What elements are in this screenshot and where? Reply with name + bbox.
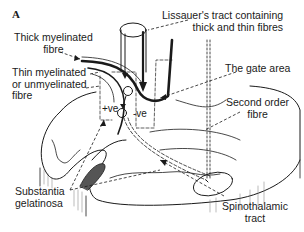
leader-thin-fibre-1 xyxy=(90,72,100,74)
leader-spinothalamic xyxy=(160,160,224,196)
label-substantia-gelatinosa: Substantia gelatinosa xyxy=(15,186,65,209)
label-line: Spinothalamic xyxy=(222,201,288,213)
label-line: fibre xyxy=(12,90,87,102)
label-line: Lissauer's tract containing xyxy=(162,10,283,22)
label-line: Substantia xyxy=(15,186,65,198)
panel-label: A xyxy=(12,8,20,20)
label-gate-area: The gate area xyxy=(225,63,290,75)
label-line: Thick myelinated xyxy=(14,32,93,44)
label-line: Second order xyxy=(226,97,289,109)
label-line: fibre xyxy=(226,109,289,121)
label-line: Thin myelinated xyxy=(12,67,87,79)
spinothalamic-tract-ellipse xyxy=(191,168,235,200)
label-spinothalamic-tract: Spinothalamic tract xyxy=(222,201,288,224)
leader-gate-area xyxy=(160,72,236,98)
label-thick-myelinated-fibre: Thick myelinated fibre xyxy=(14,32,93,55)
label-minus-ve: -ve xyxy=(133,108,147,120)
leader-thin-fibre-2 xyxy=(86,86,100,88)
interneuron-lower xyxy=(118,109,127,118)
label-line: thick and thin fibres xyxy=(162,22,283,34)
label-plus-ve: +ve xyxy=(102,103,118,115)
label-lissauers-tract: Lissauer's tract containing thick and th… xyxy=(162,10,283,33)
substantia-gelatinosa-region xyxy=(80,164,105,190)
thin-myelinated-fibre xyxy=(88,68,124,134)
label-line: fibre xyxy=(14,44,93,56)
label-line: gelatinosa xyxy=(15,198,65,210)
label-second-order-fibre: Second order fibre xyxy=(226,97,289,120)
label-line: tract xyxy=(222,213,288,225)
label-thin-fibre: Thin myelinated or unmyelinated fibre xyxy=(12,67,87,102)
interneuron-upper xyxy=(124,87,133,96)
